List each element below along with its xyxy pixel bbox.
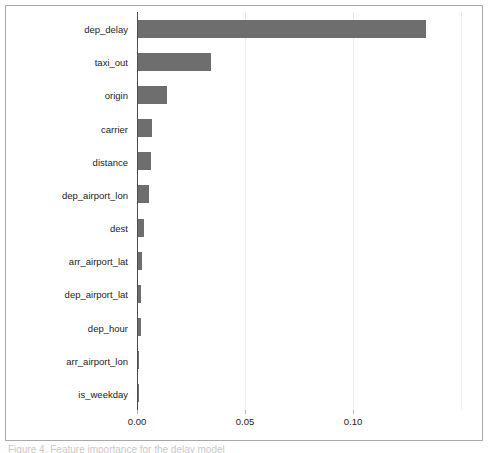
y-tick-label-distance: distance (0, 157, 128, 168)
y-tick-label-dep-airport-lat: dep_airport_lat (0, 289, 128, 300)
bar-dest (138, 219, 144, 237)
y-tick-label-dep-airport-lon: dep_airport_lon (0, 190, 128, 201)
bar-distance (138, 152, 151, 170)
bar-row (132, 12, 477, 45)
figure-caption: Figure 4. Feature importance for the del… (8, 444, 468, 453)
bar-row (132, 244, 477, 277)
y-tick-label-dest: dest (0, 223, 128, 234)
bar-carrier (138, 119, 152, 137)
bar-dep-delay (138, 20, 426, 38)
bar-row (132, 178, 477, 211)
bar-row (132, 145, 477, 178)
y-tick-label-dep-hour: dep_hour (0, 323, 128, 334)
y-tick-label-arr-airport-lat: arr_airport_lat (0, 256, 128, 267)
bar-taxi-out (138, 53, 211, 71)
x-tick-mark-1 (245, 410, 246, 414)
bar-row (132, 211, 477, 244)
x-tick-label-2: 0.10 (344, 416, 363, 427)
y-tick-label-dep-delay: dep_delay (0, 24, 128, 35)
bar-row (132, 45, 477, 78)
bar-dep-airport-lat (138, 285, 141, 303)
chart-plot-area (132, 12, 477, 410)
bar-row (132, 112, 477, 145)
bar-arr-airport-lat (138, 252, 142, 270)
y-tick-label-arr-airport-lon: arr_airport_lon (0, 356, 128, 367)
bar-row (132, 344, 477, 377)
bar-row (132, 277, 477, 310)
x-tick-label-0: 0.00 (128, 416, 147, 427)
y-tick-label-taxi-out: taxi_out (0, 57, 128, 68)
bar-row (132, 311, 477, 344)
bar-row (132, 377, 477, 410)
bar-dep-hour (138, 318, 141, 336)
bar-arr-airport-lon (138, 351, 139, 369)
bar-origin (138, 86, 167, 104)
x-tick-label-1: 0.05 (236, 416, 255, 427)
y-tick-label-carrier: carrier (0, 124, 128, 135)
bar-dep-airport-lon (138, 185, 149, 203)
bar-row (132, 78, 477, 111)
bar-is-weekday (138, 384, 139, 402)
x-tick-mark-2 (353, 410, 354, 414)
x-axis: 0.00 0.05 0.10 (132, 410, 477, 436)
x-tick-mark-0 (137, 410, 138, 414)
y-tick-label-origin: origin (0, 90, 128, 101)
y-tick-label-is-weekday: is_weekday (0, 389, 128, 400)
